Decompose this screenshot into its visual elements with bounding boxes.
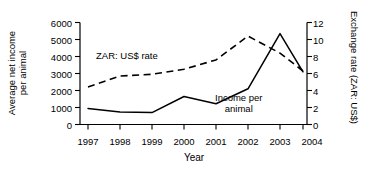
chart-figure: Average net income per animal Exchange r…	[0, 0, 372, 172]
series-income-per-animal	[88, 34, 303, 113]
annotation-income-line2: animal	[215, 103, 263, 114]
series-zar-usd-rate	[88, 36, 303, 87]
x-ticks	[88, 125, 303, 130]
chart-canvas	[0, 0, 372, 172]
axis-lines	[80, 23, 307, 125]
annotation-income-per-animal: Income per animal	[215, 92, 263, 114]
annotation-zar-usd-rate: ZAR: US$ rate	[96, 50, 158, 61]
annotation-income-line1: Income per	[215, 92, 263, 103]
y-left-ticks	[75, 23, 80, 125]
y-right-ticks	[307, 23, 312, 125]
